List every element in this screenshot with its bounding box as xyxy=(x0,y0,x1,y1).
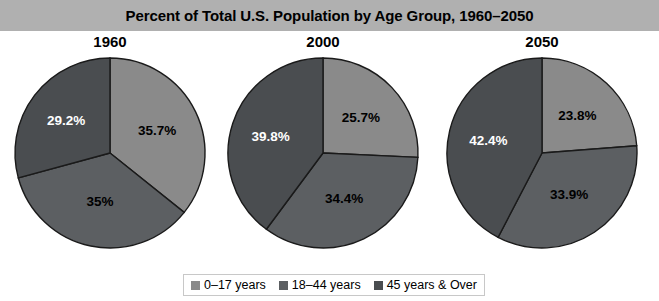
pie-chart-panel-2050: 2050 23.8%33.9%42.4% xyxy=(432,31,652,266)
legend-item-label: 18–44 years xyxy=(292,278,361,292)
pie-slice-label: 29.2% xyxy=(47,113,85,128)
pie-slice-label: 25.7% xyxy=(342,110,380,125)
pie-svg-2000: 25.7%34.4%39.8% xyxy=(223,56,423,254)
pie-chart-year-label: 2050 xyxy=(432,33,652,50)
pie-slice-label: 34.4% xyxy=(325,191,363,206)
pie-slice[interactable] xyxy=(542,58,637,153)
legend-swatch-icon xyxy=(279,281,288,290)
chart-title-bar: Percent of Total U.S. Population by Age … xyxy=(0,0,659,31)
legend-swatch-icon xyxy=(191,281,200,290)
pie-slice[interactable] xyxy=(323,58,418,157)
legend-item-label: 45 years & Over xyxy=(387,278,477,292)
pie-slice-label: 35.7% xyxy=(138,123,176,138)
legend-item-45-years-and-over[interactable]: 45 years & Over xyxy=(374,278,477,292)
legend-item-18-44-years[interactable]: 18–44 years xyxy=(279,278,361,292)
pie-chart-panel-2000: 2000 25.7%34.4%39.8% xyxy=(213,31,433,266)
pie-chart-year-label: 1960 xyxy=(0,33,220,50)
legend-swatch-icon xyxy=(374,281,383,290)
legend-item-0-17-years[interactable]: 0–17 years xyxy=(191,278,266,292)
pie-chart-year-label: 2000 xyxy=(213,33,433,50)
pie-chart-2050: 23.8%33.9%42.4% xyxy=(432,56,652,266)
chart-legend: 0–17 years 18–44 years 45 years & Over xyxy=(183,274,485,296)
pie-slice-label: 35% xyxy=(86,194,113,209)
pie-charts-row: 1960 35.7%35%29.2% 2000 25.7%34.4%39.8% … xyxy=(0,31,659,266)
pie-slice-label: 39.8% xyxy=(252,129,290,144)
pie-chart-2000: 25.7%34.4%39.8% xyxy=(213,56,433,266)
legend-item-label: 0–17 years xyxy=(204,278,266,292)
pie-slice-label: 33.9% xyxy=(550,187,588,202)
pie-chart-1960: 35.7%35%29.2% xyxy=(0,56,220,266)
pie-chart-panel-1960: 1960 35.7%35%29.2% xyxy=(0,31,220,266)
pie-svg-2050: 23.8%33.9%42.4% xyxy=(442,56,642,254)
pie-slice-label: 42.4% xyxy=(469,133,507,148)
pie-slice-label: 23.8% xyxy=(558,108,596,123)
pie-svg-1960: 35.7%35%29.2% xyxy=(10,56,210,254)
page-title: Percent of Total U.S. Population by Age … xyxy=(126,7,534,24)
